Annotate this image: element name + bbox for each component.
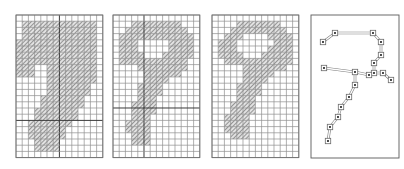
filled-run <box>224 58 292 64</box>
filled-run <box>218 40 237 46</box>
skeleton-node-dot <box>380 41 382 43</box>
filled-run <box>119 58 187 64</box>
skeleton-node-dot <box>368 74 370 76</box>
skeleton-node-dot <box>373 72 375 74</box>
panel-thinned-2 <box>211 14 300 159</box>
filled-run <box>119 40 138 46</box>
skeleton-node-dot <box>329 126 331 128</box>
filled-run <box>231 27 287 33</box>
filled-run <box>119 46 138 52</box>
skeleton-node-dot <box>390 79 392 81</box>
skeleton-node-dot <box>373 62 375 64</box>
filled-run <box>231 133 250 139</box>
skeleton-node-dot <box>382 72 384 74</box>
panel-original <box>15 14 104 159</box>
filled-run <box>132 139 151 145</box>
filled-run <box>138 96 157 102</box>
skeleton-node-dot <box>323 67 325 69</box>
panel-skeleton-graph <box>310 14 400 159</box>
skeleton-node-dot <box>372 32 374 34</box>
filled-run <box>274 40 293 46</box>
skeleton-node-dot <box>348 96 350 98</box>
filled-run <box>243 71 274 77</box>
skeleton-node-dot <box>334 32 336 34</box>
filled-run <box>16 65 35 71</box>
panel-thinned-1 <box>112 14 201 159</box>
skeleton-node-dot <box>322 41 324 43</box>
filled-run <box>237 96 256 102</box>
filled-run <box>163 52 194 58</box>
filled-run <box>132 133 151 139</box>
skeleton-node-dot <box>380 54 382 56</box>
skeleton-edge-core <box>324 68 355 72</box>
skeleton-node-dot <box>337 116 339 118</box>
filled-run <box>132 114 151 120</box>
figure-root <box>0 0 404 169</box>
filled-run <box>224 34 243 40</box>
skeleton-nodes <box>320 30 393 143</box>
skeleton-node-dot <box>354 71 356 73</box>
skeleton-node-dot <box>327 140 329 142</box>
skeleton-node-dot <box>354 84 356 86</box>
filled-run <box>262 52 293 58</box>
skeleton-node-dot <box>340 106 342 108</box>
filled-run <box>218 46 237 52</box>
filled-run <box>16 71 35 77</box>
